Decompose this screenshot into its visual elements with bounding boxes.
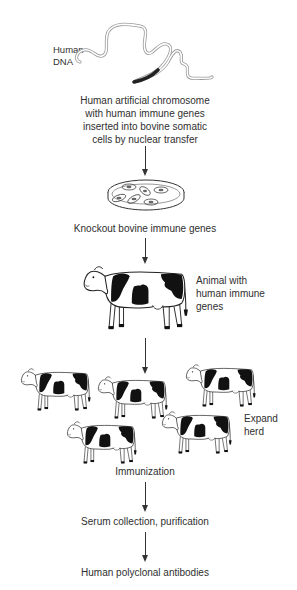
expand-herd-label: Expand herd xyxy=(244,412,294,438)
animal-label-line-2: human immune xyxy=(196,287,286,300)
cow-icon xyxy=(185,361,257,409)
hac-line-3: inserted into bovine somatic xyxy=(40,120,250,133)
cow-icon xyxy=(82,261,190,333)
hac-description: Human artificial chromosome with human i… xyxy=(40,94,250,146)
petri-dish-icon xyxy=(104,178,188,214)
hac-line-4: cells by nuclear transfer xyxy=(40,133,250,146)
arrow-down-icon xyxy=(141,338,150,374)
arrow-down-icon xyxy=(141,146,150,176)
serum-collection-label: Serum collection, purification xyxy=(40,516,250,528)
hac-line-2: with human immune genes xyxy=(40,107,250,120)
dna-strand-icon xyxy=(0,0,297,100)
animal-label: Animal with human immune genes xyxy=(196,274,286,313)
arrow-down-icon xyxy=(141,532,150,562)
cow-icon xyxy=(97,373,169,421)
expand-herd-line-1: Expand xyxy=(244,412,294,425)
cow-icon xyxy=(20,365,92,413)
animal-label-line-1: Animal with xyxy=(196,274,286,287)
cow-icon xyxy=(66,418,138,466)
polyclonal-antibodies-label: Human polyclonal antibodies xyxy=(40,567,250,579)
hac-line-1: Human artificial chromosome xyxy=(40,94,250,107)
cow-icon xyxy=(161,408,233,456)
arrow-down-icon xyxy=(141,482,150,512)
expand-herd-line-2: herd xyxy=(244,425,294,438)
immunization-label: Immunization xyxy=(40,466,250,478)
animal-label-line-3: genes xyxy=(196,300,286,313)
knockout-label: Knockout bovine immune genes xyxy=(40,223,250,235)
